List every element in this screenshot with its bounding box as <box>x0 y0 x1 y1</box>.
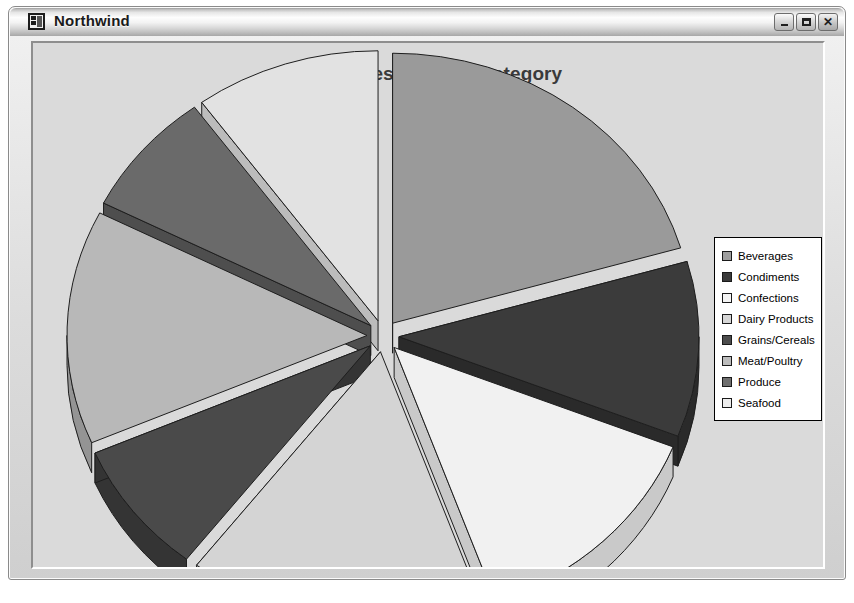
legend-label: Beverages <box>738 250 793 262</box>
legend-item[interactable]: Meat/Poultry <box>722 350 815 371</box>
legend-item[interactable]: Dairy Products <box>722 308 815 329</box>
chart-legend: BeveragesCondimentsConfectionsDairy Prod… <box>714 237 822 421</box>
chart-canvas[interactable]: Total Sales by Food Category SeafoodBeve… <box>31 41 825 569</box>
legend-item[interactable]: Condiments <box>722 266 815 287</box>
legend-label: Dairy Products <box>738 313 813 325</box>
legend-swatch-icon <box>722 377 732 387</box>
close-button[interactable]: ✕ <box>818 13 838 31</box>
maximize-button[interactable] <box>796 13 816 31</box>
legend-swatch-icon <box>722 293 732 303</box>
legend-item[interactable]: Confections <box>722 287 815 308</box>
legend-swatch-icon <box>722 272 732 282</box>
legend-swatch-icon <box>722 314 732 324</box>
legend-label: Meat/Poultry <box>738 355 803 367</box>
minimize-button[interactable] <box>774 13 794 31</box>
legend-swatch-icon <box>722 398 732 408</box>
legend-swatch-icon <box>722 335 732 345</box>
title-bar[interactable]: Northwind ✕ <box>10 8 844 36</box>
legend-item[interactable]: Beverages <box>722 245 815 266</box>
pie-chart: SeafoodBeveragesProduceMeat/PoultryCondi… <box>33 43 825 569</box>
form-icon <box>28 13 45 30</box>
legend-label: Grains/Cereals <box>738 334 815 346</box>
legend-label: Produce <box>738 376 781 388</box>
legend-item[interactable]: Grains/Cereals <box>722 329 815 350</box>
window-controls: ✕ <box>774 13 838 32</box>
application-window: Northwind ✕ Total Sales by Food Category… <box>8 6 846 580</box>
legend-swatch-icon <box>722 251 732 261</box>
legend-item[interactable]: Seafood <box>722 392 815 413</box>
chart-background: Total Sales by Food Category SeafoodBeve… <box>33 43 823 567</box>
window-title: Northwind <box>54 12 130 29</box>
legend-label: Seafood <box>738 397 781 409</box>
close-icon: ✕ <box>819 14 837 30</box>
legend-item[interactable]: Produce <box>722 371 815 392</box>
legend-label: Condiments <box>738 271 799 283</box>
legend-swatch-icon <box>722 356 732 366</box>
legend-label: Confections <box>738 292 799 304</box>
